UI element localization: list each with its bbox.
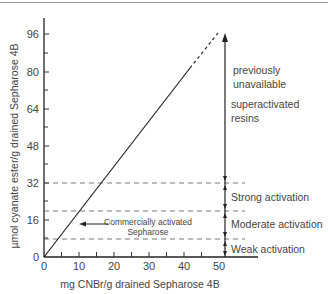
svg-text:64: 64 xyxy=(27,103,39,115)
arrow-left-icon xyxy=(79,222,86,227)
unavailable-label: unavailable xyxy=(233,78,286,90)
svg-text:50: 50 xyxy=(213,260,225,272)
svg-text:10: 10 xyxy=(73,260,85,272)
segment-arrowheads xyxy=(223,176,227,256)
svg-text:0: 0 xyxy=(41,260,47,272)
svg-text:16: 16 xyxy=(27,214,39,226)
y-tick-labels: 96 80 64 48 32 16 0 xyxy=(27,28,39,263)
arrow-up-icon xyxy=(222,33,228,42)
previously-label: previously xyxy=(233,64,281,76)
x-axis-title: mg CNBr/g drained Sepharose 4B xyxy=(60,278,219,290)
y-axis-title: µmol cyanate ester/g drained Sepharose 4… xyxy=(8,43,20,248)
commercial-label-2: Sepharose xyxy=(127,227,168,237)
svg-text:80: 80 xyxy=(27,66,39,78)
svg-text:30: 30 xyxy=(143,260,155,272)
svg-text:32: 32 xyxy=(27,177,39,189)
weak-label: Weak activation xyxy=(231,243,305,255)
x-tick-labels: 0 10 20 30 40 50 xyxy=(41,260,225,272)
resins-label: resins xyxy=(231,112,259,124)
chart: 96 80 64 48 32 16 0 0 10 20 30 40 50 mg … xyxy=(0,0,328,294)
svg-text:40: 40 xyxy=(178,260,190,272)
x-ticks xyxy=(62,252,202,257)
moderate-label: Moderate activation xyxy=(231,218,323,230)
commercial-label-1: Commercially activated xyxy=(104,217,192,227)
range-labels: Strong activation Moderate activation We… xyxy=(231,64,323,255)
y-ticks xyxy=(44,34,49,238)
activation-line-extrapolated xyxy=(190,33,218,68)
strong-label: Strong activation xyxy=(231,191,309,203)
svg-text:48: 48 xyxy=(27,140,39,152)
svg-text:96: 96 xyxy=(27,28,39,40)
superactivated-label: superactivated xyxy=(231,98,299,110)
svg-text:0: 0 xyxy=(33,251,39,263)
svg-text:20: 20 xyxy=(108,260,120,272)
